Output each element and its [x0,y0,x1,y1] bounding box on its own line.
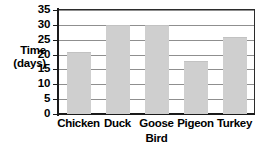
bar [106,25,130,114]
y-axis-tick-label: 25 [28,34,50,45]
bar-slot [223,10,247,114]
bar-slot [106,10,130,114]
bar [223,37,247,114]
y-axis-tick-label: 35 [28,4,50,15]
y-axis-tick-label: 15 [28,63,50,74]
bars-group [59,10,254,114]
y-axis-tick [53,114,58,115]
y-axis-tick-label: 10 [28,78,50,89]
bar-slot [67,10,91,114]
y-axis-tick [53,84,58,85]
bar [145,25,169,114]
y-axis-tick-label: 30 [28,19,50,30]
y-axis-tick-label: 20 [28,49,50,60]
bar [67,52,91,114]
x-axis-tick-labels: ChickenDuckGoosePigeonTurkey [46,116,263,132]
y-axis-tick [53,25,58,26]
bar [184,61,208,114]
y-axis-tick [53,99,58,100]
x-axis-title: Bird [58,132,255,145]
x-axis-tick-label: Turkey [205,116,264,130]
bar-slot [145,10,169,114]
y-axis-tick [53,10,58,11]
bar-chart: Time (days) 05101520253035 ChickenDuckGo… [0,0,263,150]
bar-slot [184,10,208,114]
y-axis-tick [53,55,58,56]
y-axis-tick [53,40,58,41]
y-axis-tick [53,69,58,70]
y-axis-tick-label: 5 [28,93,50,104]
